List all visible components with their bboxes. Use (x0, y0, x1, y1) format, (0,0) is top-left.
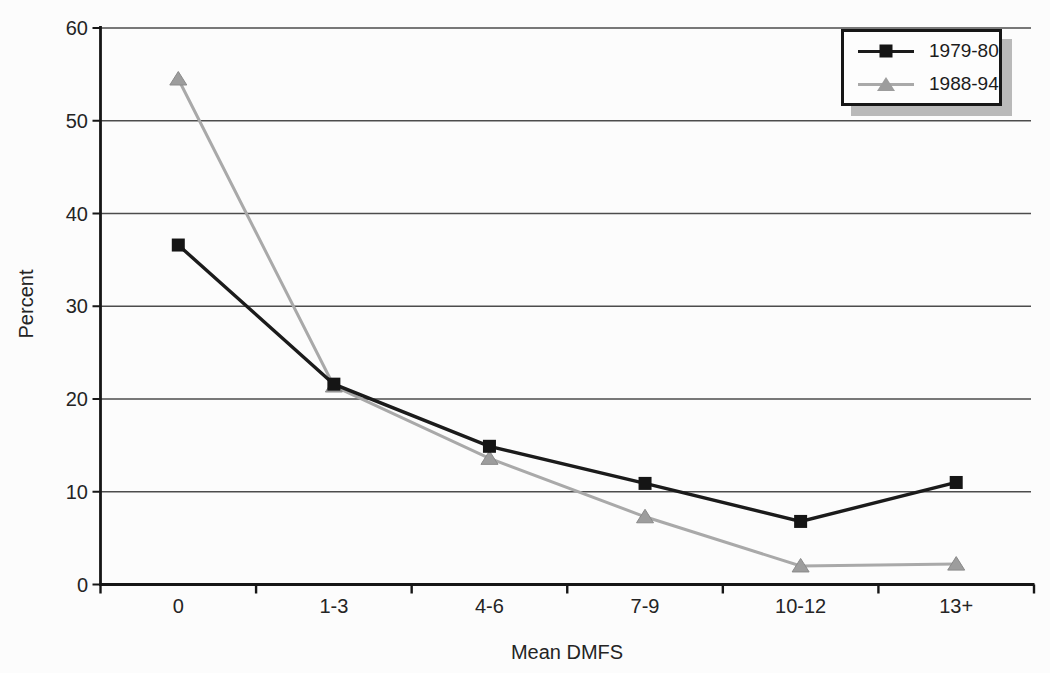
square-marker-icon (880, 44, 893, 57)
y-tick-label: 50 (34, 109, 88, 133)
data-point-square-1979-80 (483, 440, 496, 453)
y-tick-label: 10 (34, 480, 88, 504)
data-point-square-1979-80 (172, 239, 185, 252)
legend-sample-1979-80 (858, 42, 914, 60)
x-tick-label: 10-12 (775, 595, 826, 618)
y-axis-title: Percent (15, 270, 38, 339)
x-tick-label: 4-6 (475, 595, 504, 618)
y-tick-label: 30 (34, 294, 88, 318)
triangle-marker-icon (877, 77, 895, 91)
y-tick-label: 60 (34, 16, 88, 40)
legend: 1979-80 1988-94 (841, 29, 1002, 106)
legend-label: 1988-94 (929, 73, 999, 95)
chart-figure: 0102030405060 01-34-67-910-1213+ Percent… (0, 0, 1050, 673)
data-point-square-1979-80 (950, 476, 963, 489)
series-line-1979-80 (178, 245, 956, 521)
data-point-square-1979-80 (794, 515, 807, 528)
x-tick-label: 13+ (939, 595, 973, 618)
data-point-square-1979-80 (639, 477, 652, 490)
series-line-1988-94 (178, 79, 956, 566)
x-tick-label: 0 (173, 595, 184, 618)
y-tick-label: 40 (34, 202, 88, 226)
x-tick-label: 7-9 (631, 595, 660, 618)
y-tick-label: 0 (34, 573, 88, 597)
x-tick-label: 1-3 (319, 595, 348, 618)
legend-item-1988-94: 1988-94 (858, 69, 999, 99)
x-axis-title: Mean DMFS (511, 641, 623, 664)
y-tick-label: 20 (34, 387, 88, 411)
legend-sample-1988-94 (858, 75, 914, 93)
legend-item-1979-80: 1979-80 (858, 36, 999, 66)
data-point-triangle-1988-94 (170, 72, 187, 86)
data-point-square-1979-80 (327, 378, 340, 391)
legend-label: 1979-80 (929, 40, 999, 62)
data-point-triangle-1988-94 (481, 451, 498, 465)
